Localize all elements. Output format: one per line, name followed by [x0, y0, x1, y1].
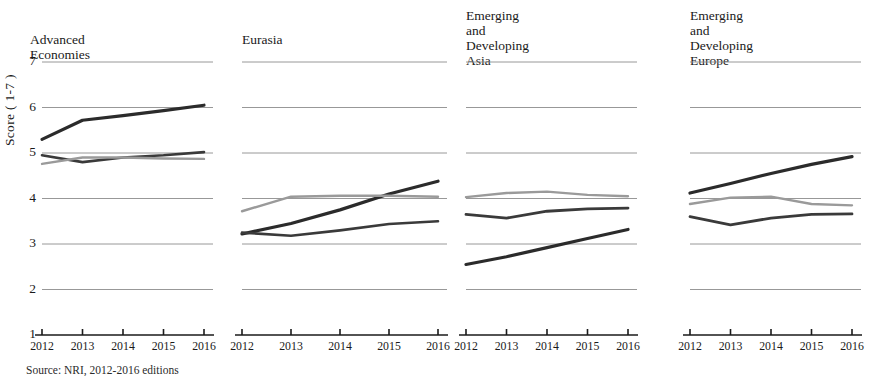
- y-axis-tick-label: 4: [20, 190, 36, 206]
- plot-area: [690, 0, 866, 376]
- y-axis-tick-label: 2: [20, 281, 36, 297]
- x-axis-tick-label: 2013: [713, 339, 749, 354]
- y-axis-label: Score ( 1-7 ): [2, 26, 18, 146]
- x-axis-tick-label: 2016: [834, 339, 869, 354]
- data-line-series-2: [690, 214, 852, 225]
- x-axis-tick-label: 2012: [224, 339, 260, 354]
- x-axis-tick-label: 2014: [322, 339, 358, 354]
- y-axis-tick-label: 6: [20, 99, 36, 115]
- plot-area: [242, 0, 452, 376]
- plot-area: [42, 0, 218, 376]
- data-line-series-3: [466, 192, 628, 197]
- x-axis-tick-label: 2012: [672, 339, 708, 354]
- data-line-series-2: [466, 229, 628, 264]
- data-line-series-3: [690, 197, 852, 206]
- y-axis-tick-label: 3: [20, 235, 36, 251]
- data-line-series-1: [242, 181, 438, 234]
- x-axis-tick-label: 2015: [371, 339, 407, 354]
- plot-area: [466, 0, 642, 376]
- y-axis-tick-label: 7: [20, 53, 36, 69]
- data-line-series-1: [42, 105, 204, 139]
- x-axis-tick-label: 2013: [65, 339, 101, 354]
- x-axis-tick-label: 2015: [570, 339, 606, 354]
- x-axis-tick-label: 2012: [448, 339, 484, 354]
- x-axis-tick-label: 2016: [186, 339, 222, 354]
- x-axis-tick-label: 2013: [273, 339, 309, 354]
- x-axis-tick-label: 2014: [529, 339, 565, 354]
- x-axis-tick-label: 2014: [105, 339, 141, 354]
- x-axis-tick-label: 2012: [24, 339, 60, 354]
- x-axis-tick-label: 2015: [794, 339, 830, 354]
- data-line-series-1: [690, 157, 852, 193]
- x-axis-tick-label: 2015: [146, 339, 182, 354]
- y-axis-tick-label: 5: [20, 144, 36, 160]
- x-axis-tick-label: 2013: [489, 339, 525, 354]
- data-line-series-1: [466, 208, 628, 218]
- x-axis-tick-label: 2014: [753, 339, 789, 354]
- x-axis-tick-label: 2016: [610, 339, 646, 354]
